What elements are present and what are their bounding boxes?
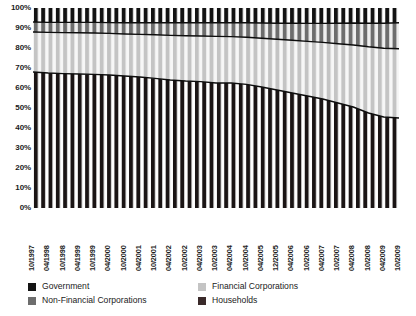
y-axis-tick-label: 100% (1, 4, 31, 12)
y-axis-tick-label: 70% (1, 64, 31, 72)
x-axis-tick-label: 04/2002 (164, 245, 173, 271)
plot-area (33, 8, 399, 208)
y-axis-tick-label: 30% (1, 144, 31, 152)
plot-svg (33, 8, 399, 208)
x-axis-tick-label: 04/2003 (195, 245, 204, 271)
stacked-bands (33, 8, 399, 208)
legend-item-label: Non-Financial Corporations (42, 295, 147, 306)
legend-swatch-icon (198, 297, 206, 305)
x-axis-tick-label: 10/2006 (302, 245, 311, 271)
y-axis-tick-label: 10% (1, 184, 31, 192)
x-axis-tick-label: 10/1998 (58, 245, 67, 271)
chart-legend: GovernmentNon-Financial CorporationsFina… (28, 281, 408, 311)
x-axis-tick-label: 04/2000 (103, 245, 112, 271)
x-axis-tick-label: 12/2005 (271, 245, 280, 271)
x-axis-tick-label: 04/2009 (378, 245, 387, 271)
x-axis-tick-label: 10/2000 (119, 245, 128, 271)
y-axis-tick-label: 80% (1, 44, 31, 52)
legend-item-label: Financial Corporations (212, 281, 298, 292)
x-axis-tick-label: 10/2003 (210, 245, 219, 271)
legend-swatch-icon (198, 283, 206, 291)
x-axis-tick-label: 04/1998 (42, 245, 51, 271)
x-axis-tick-label: 04/2006 (286, 245, 295, 271)
band-government (33, 8, 399, 23)
x-axis-tick-label: 04/2008 (347, 245, 356, 271)
y-axis: 100%90%80%70%60%50%40%30%20%10%0% (0, 0, 31, 216)
legend-item-label: Households (212, 295, 257, 306)
x-axis-tick-label: 10/2009 (393, 245, 402, 271)
x-axis-tick-label: 04/2007 (317, 245, 326, 271)
y-axis-tick-label: 90% (1, 24, 31, 32)
x-axis-tick-label: 04/2001 (134, 245, 143, 271)
y-axis-tick-label: 60% (1, 84, 31, 92)
x-axis-tick-label: 10/1999 (88, 245, 97, 271)
y-axis-tick-label: 20% (1, 164, 31, 172)
x-axis-tick-label: 10/2001 (149, 245, 158, 271)
x-axis-tick-label: 10/2008 (363, 245, 372, 271)
y-axis-tick-label: 50% (1, 104, 31, 112)
x-axis-tick-label: 10/1997 (27, 245, 36, 271)
y-axis-tick-label: 40% (1, 124, 31, 132)
x-axis-tick-label: 04/1999 (73, 245, 82, 271)
legend-item-label: Government (42, 281, 89, 292)
y-axis-tick-label: 0% (1, 204, 31, 212)
legend-item[interactable]: Financial Corporations (198, 281, 298, 292)
legend-swatch-icon (28, 297, 36, 305)
x-axis-tick-label: 10/2007 (332, 245, 341, 271)
x-axis-tick-label: 04/2005 (256, 245, 265, 271)
legend-swatch-icon (28, 283, 36, 291)
x-axis-tick-label: 10/2002 (180, 245, 189, 271)
legend-item[interactable]: Government (28, 281, 89, 292)
x-axis-tick-label: 10/2004 (241, 245, 250, 271)
legend-item[interactable]: Households (198, 295, 257, 306)
stacked-area-chart: 100%90%80%70%60%50%40%30%20%10%0% (0, 0, 416, 316)
x-axis-tick-label: 04/2004 (225, 245, 234, 271)
legend-item[interactable]: Non-Financial Corporations (28, 295, 147, 306)
x-axis: 10/199704/199810/199804/199910/199904/20… (33, 209, 399, 271)
